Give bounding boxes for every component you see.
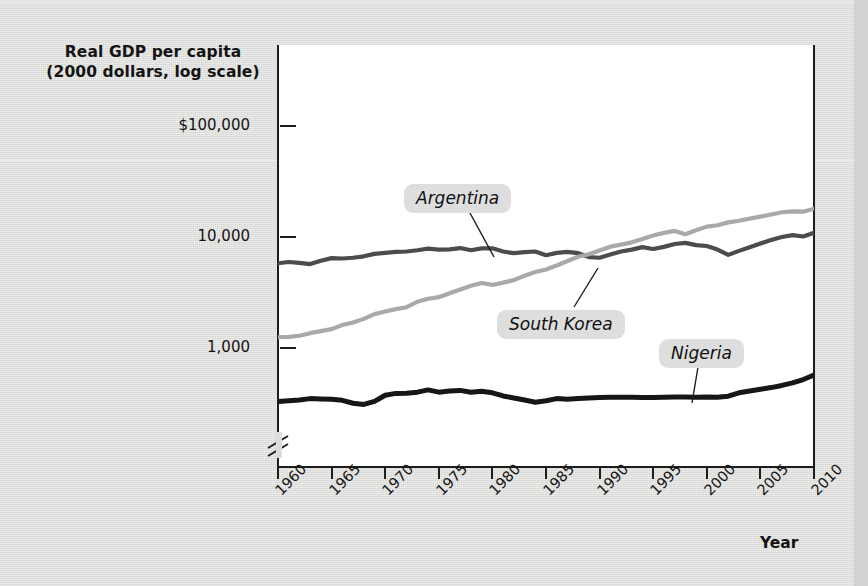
callout-leader-line bbox=[470, 213, 494, 257]
callout-label-south-korea: South Korea bbox=[497, 310, 625, 339]
callout-label-nigeria: Nigeria bbox=[659, 339, 744, 368]
callout-leader-lines bbox=[0, 0, 868, 586]
gdp-per-capita-chart: Real GDP per capita (2000 dollars, log s… bbox=[0, 0, 868, 586]
callout-label-argentina: Argentina bbox=[404, 184, 511, 213]
callout-leader-line bbox=[574, 268, 598, 307]
x-axis-title: Year bbox=[760, 534, 798, 552]
callout-leader-line bbox=[692, 367, 698, 403]
